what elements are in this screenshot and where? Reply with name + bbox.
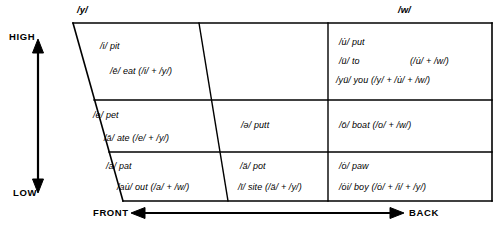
cell-front-mid-line-1: /e/ pet xyxy=(93,110,119,120)
vowel-chart-diagram: HIGH LOW FRONT BACK /y/ /w/ /i/ pit /ē/ … xyxy=(0,0,503,230)
cell-back-high-line-1: /u̇/ put xyxy=(339,37,365,47)
cell-back-low-line-1: /ȯ/ paw xyxy=(339,161,369,171)
cell-back-high-line-2b: (/u̇/ + /w/) xyxy=(410,56,449,66)
cell-front-high-line-2: /ē/ eat (/i/ + /y/) xyxy=(110,66,172,76)
cell-central-low-line-1: /ä/ pot xyxy=(240,161,266,171)
cell-front-mid-line-2: /ā/ ate (/e/ + /y/) xyxy=(104,133,169,143)
axis-label-back: BACK xyxy=(409,207,439,218)
diagram-lines-layer xyxy=(0,0,503,230)
divider-front-central xyxy=(199,23,228,201)
cell-front-low-line-2: /au̇/ out (/a/ + /w/) xyxy=(117,182,189,192)
axis-label-front: FRONT xyxy=(93,207,129,218)
cell-front-low-line-1: /a/ pat xyxy=(106,161,132,171)
cell-back-low-line-2: /ȯi/ boy (/ȯ/ + /i/ + /y/) xyxy=(339,182,426,192)
glide-label-back-w: /w/ xyxy=(398,4,411,15)
vertical-axis-arrow xyxy=(33,39,44,193)
cell-central-low-line-2: /ī/ site (/ä/ + /y/) xyxy=(238,182,302,192)
cell-front-high-line-1: /i/ pit xyxy=(100,41,120,51)
cell-back-mid-line-1: /ō/ boat (/o/ + /w/) xyxy=(339,120,411,130)
cell-central-mid-line-1: /ə/ putt xyxy=(241,120,269,130)
cell-back-high-line-2a: /ü/ to xyxy=(339,56,360,66)
glide-label-front-y: /y/ xyxy=(77,4,88,15)
axis-label-high: HIGH xyxy=(9,31,35,42)
cell-back-high-line-3: /yü/ you (/y/ + /u̇/ + /w/) xyxy=(336,75,430,85)
axis-label-low: LOW xyxy=(13,187,37,198)
horizontal-axis-arrow xyxy=(131,208,404,219)
